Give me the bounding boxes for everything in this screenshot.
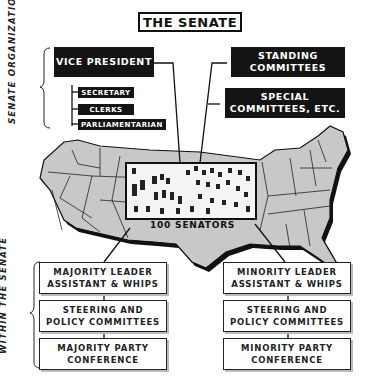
- vice-president-label: VICE PRESIDENT: [56, 56, 152, 68]
- standing-committees-line2: COMMITTEES: [250, 62, 327, 74]
- majority-steering-line1: STEERING AND: [63, 304, 144, 316]
- within-senate-label: WITHIN THE SENATE: [0, 272, 8, 354]
- minority-leader-line2: ASSISTANT & WHIPS: [231, 278, 342, 290]
- vice-president-box: VICE PRESIDENT: [54, 47, 154, 77]
- title-box: THE SENATE: [138, 12, 242, 32]
- majority-conference-line2: CONFERENCE: [67, 354, 139, 366]
- clerks-label: CLERKS: [89, 106, 122, 114]
- secretary-box: SECRETARY: [78, 87, 134, 98]
- parliamentarian-label: PARLIAMENTARIAN: [81, 121, 163, 129]
- majority-conference-line1: MAJORITY PARTY: [57, 342, 148, 354]
- minority-steering-box: STEERING AND POLICY COMMITTEES: [223, 300, 351, 332]
- minority-conference-line1: MINORITY PARTY: [241, 342, 333, 354]
- parliamentarian-box: PARLIAMENTARIAN: [78, 119, 166, 130]
- secretary-label: SECRETARY: [81, 89, 130, 97]
- special-committees-line1: SPECIAL: [261, 91, 309, 103]
- minority-steering-line1: STEERING AND: [247, 304, 328, 316]
- title-text: THE SENATE: [143, 15, 237, 30]
- majority-conference-box: MAJORITY PARTY CONFERENCE: [39, 338, 167, 370]
- senators-caption: 100 SENATORS: [150, 220, 235, 230]
- standing-committees-box: STANDING COMMITTEES: [231, 47, 345, 77]
- special-committees-box: SPECIAL COMMITTEES, ETC.: [225, 88, 345, 118]
- majority-leader-line1: MAJORITY LEADER: [53, 266, 152, 278]
- minority-leader-box: MINORITY LEADER ASSISTANT & WHIPS: [223, 262, 351, 294]
- minority-conference-box: MINORITY PARTY CONFERENCE: [223, 338, 351, 370]
- majority-leader-line2: ASSISTANT & WHIPS: [47, 278, 158, 290]
- minority-leader-line1: MINORITY LEADER: [237, 266, 337, 278]
- majority-steering-line2: POLICY COMMITTEES: [46, 316, 160, 328]
- minority-conference-line2: CONFERENCE: [251, 354, 323, 366]
- majority-leader-box: MAJORITY LEADER ASSISTANT & WHIPS: [39, 262, 167, 294]
- minority-steering-line2: POLICY COMMITTEES: [230, 316, 344, 328]
- standing-committees-line1: STANDING: [258, 50, 318, 62]
- clerks-box: CLERKS: [78, 104, 134, 115]
- majority-steering-box: STEERING AND POLICY COMMITTEES: [39, 300, 167, 332]
- senate-organization-label: SENATE ORGANIZATION: [7, 40, 17, 124]
- special-committees-line2: COMMITTEES, ETC.: [230, 103, 341, 115]
